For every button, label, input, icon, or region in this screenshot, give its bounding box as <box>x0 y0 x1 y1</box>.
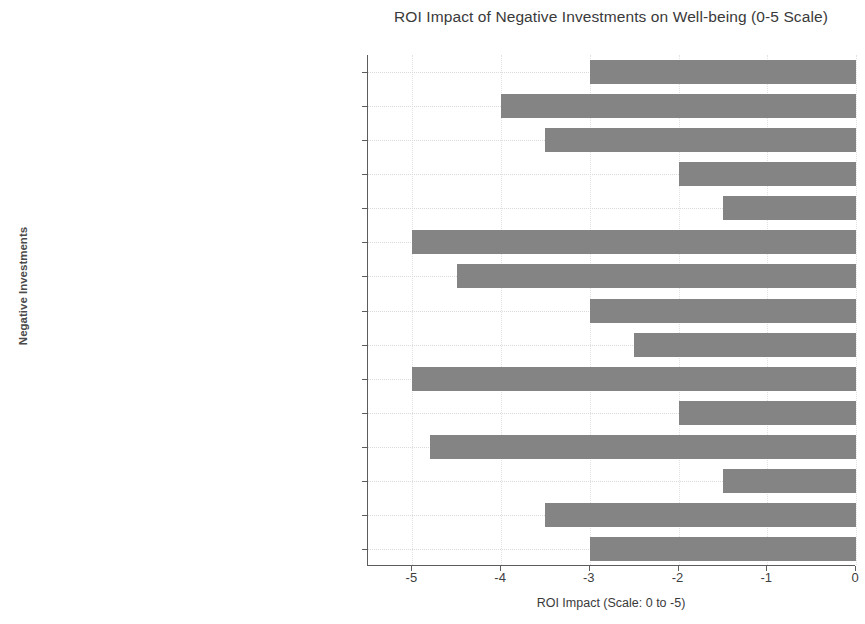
bar <box>723 196 856 220</box>
bar <box>545 128 856 152</box>
plot-area <box>367 55 855 566</box>
bar <box>679 162 856 186</box>
bar <box>430 435 856 459</box>
y-tick-mark <box>362 481 367 482</box>
bar <box>545 503 856 527</box>
chart-title: ROI Impact of Negative Investments on We… <box>367 8 855 26</box>
y-tick-mark <box>362 379 367 380</box>
x-tick-label: 0 <box>835 570 865 585</box>
x-tick-label: -5 <box>391 570 431 585</box>
y-tick-mark <box>362 345 367 346</box>
y-tick-mark <box>362 549 367 550</box>
bar <box>590 299 856 323</box>
x-tick-label: -1 <box>746 570 786 585</box>
y-tick-mark <box>362 447 367 448</box>
y-tick-mark <box>362 208 367 209</box>
y-axis-title: Negative Investments <box>17 186 29 386</box>
y-tick-mark <box>362 174 367 175</box>
y-tick-mark <box>362 413 367 414</box>
bar <box>501 94 856 118</box>
bar <box>590 60 856 84</box>
x-tick-label: -3 <box>569 570 609 585</box>
y-tick-mark <box>362 242 367 243</box>
bar <box>457 264 856 288</box>
bar <box>634 333 856 357</box>
y-tick-mark <box>362 140 367 141</box>
bar <box>679 401 856 425</box>
bar <box>412 230 856 254</box>
y-tick-mark <box>362 106 367 107</box>
y-tick-mark <box>362 72 367 73</box>
x-tick-label: -4 <box>480 570 520 585</box>
x-axis-title: ROI Impact (Scale: 0 to -5) <box>367 596 855 610</box>
y-tick-mark <box>362 515 367 516</box>
y-tick-mark <box>362 276 367 277</box>
bar <box>723 469 856 493</box>
bar <box>590 537 856 561</box>
bar <box>412 367 856 391</box>
chart-figure: ROI Impact of Negative Investments on We… <box>0 0 865 624</box>
y-tick-mark <box>362 311 367 312</box>
x-tick-label: -2 <box>658 570 698 585</box>
gridline-vertical <box>856 55 857 565</box>
